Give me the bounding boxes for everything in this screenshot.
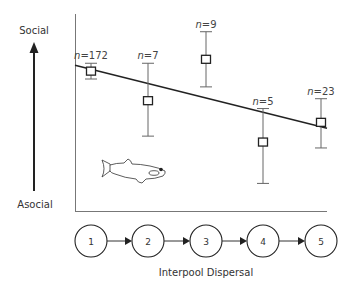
- mean-marker: [259, 138, 268, 146]
- fish-icon: [102, 159, 165, 183]
- flow-arrow-head-icon: [183, 237, 190, 245]
- dispersal-node-label: 4: [260, 237, 266, 247]
- dispersal-node-label: 5: [318, 237, 324, 247]
- sample-size-label: n=23: [307, 86, 334, 97]
- data-points: n=172n=7n=9n=5n=23: [74, 19, 335, 184]
- flow-arrow-head-icon: [240, 237, 247, 245]
- sample-size-label: n=5: [252, 96, 273, 107]
- dispersal-node-label: 2: [145, 237, 151, 247]
- x-axis-label: Interpool Dispersal: [159, 267, 253, 278]
- sample-size-label: n=172: [74, 50, 108, 61]
- sample-size-label: n=9: [195, 19, 216, 30]
- mean-marker: [144, 97, 153, 105]
- mean-marker: [202, 55, 211, 63]
- dispersal-flow: 12345: [75, 225, 337, 257]
- sociality-arrow-head-icon: [30, 42, 39, 53]
- regression-line: [75, 65, 327, 128]
- y-label-asocial: Asocial: [17, 199, 52, 210]
- flow-arrow-head-icon: [125, 237, 132, 245]
- sample-size-label: n=7: [137, 50, 158, 61]
- mean-marker: [87, 67, 96, 75]
- chart: Social Asocial n=172n=7n=9n=5n=23 12345 …: [0, 0, 358, 286]
- flow-arrow-head-icon: [298, 237, 305, 245]
- mean-marker: [317, 118, 326, 126]
- dispersal-node-label: 1: [88, 237, 94, 247]
- dispersal-node-label: 3: [203, 237, 209, 247]
- y-label-social: Social: [19, 25, 49, 36]
